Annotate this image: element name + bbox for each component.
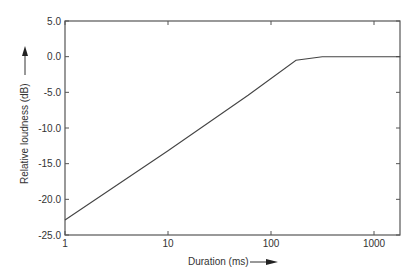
x-tick-label: 100 <box>263 238 280 249</box>
y-axis-title: Relative loudness (dB) <box>19 46 30 184</box>
x-axis: 1101001000 <box>62 21 385 249</box>
plot-frame <box>65 21 400 235</box>
loudness-line <box>65 57 400 220</box>
y-tick-label: -25.0 <box>38 230 61 241</box>
y-tick-label: -10.0 <box>38 123 61 134</box>
up-arrow-icon <box>22 46 28 56</box>
y-axis-label: Relative loudness (dB) <box>19 83 30 184</box>
loudness-chart: 5.00.0-5.0-10.0-15.0-20.0-25.0 110100100… <box>0 0 420 277</box>
x-axis-title: Duration (ms) <box>188 256 278 267</box>
y-tick-label: 0.0 <box>47 51 61 62</box>
right-arrow-icon <box>266 259 278 265</box>
plot-border <box>65 21 400 235</box>
y-tick-label: -20.0 <box>38 194 61 205</box>
data-series <box>65 57 400 220</box>
y-tick-label: 5.0 <box>47 16 61 27</box>
y-axis: 5.00.0-5.0-10.0-15.0-20.0-25.0 <box>38 16 400 241</box>
x-tick-label: 1 <box>62 238 68 249</box>
x-tick-label: 1000 <box>363 238 386 249</box>
y-tick-label: -5.0 <box>44 87 62 98</box>
x-axis-label: Duration (ms) <box>188 256 249 267</box>
x-tick-label: 10 <box>162 238 174 249</box>
y-tick-label: -15.0 <box>38 158 61 169</box>
